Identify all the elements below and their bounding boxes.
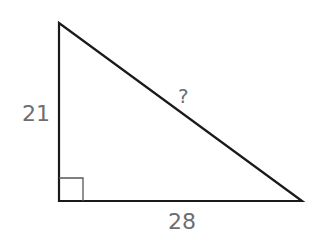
horizontal-leg-label: 28 <box>168 209 196 234</box>
right-triangle <box>59 23 302 201</box>
right-angle-marker <box>59 178 83 201</box>
hypotenuse-label: ? <box>178 84 189 108</box>
triangle-diagram: 21 ? 28 <box>0 0 316 246</box>
vertical-leg-label: 21 <box>22 101 50 126</box>
